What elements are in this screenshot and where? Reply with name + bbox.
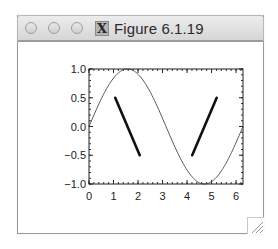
x-tick-label: 1 [110, 190, 116, 202]
title-bar[interactable]: X Figure 6.1.19 [17, 15, 264, 42]
series-segment-2 [192, 98, 217, 156]
y-tick-label: −0.5 [64, 149, 86, 161]
x-tick-label: 3 [159, 190, 165, 202]
window-title: Figure 6.1.19 [114, 20, 204, 37]
x-tick-label: 5 [208, 190, 214, 202]
zoom-button[interactable] [71, 22, 83, 34]
close-button[interactable] [25, 22, 37, 34]
series-sin-x- [89, 69, 243, 184]
x-tick-label: 0 [86, 190, 92, 202]
resize-grip-icon [248, 218, 264, 234]
series-segment-1 [115, 98, 140, 156]
x-tick-label: 4 [184, 190, 190, 202]
x-tick-label: 6 [233, 190, 239, 202]
y-tick-label: 0.0 [71, 121, 86, 133]
resize-grip[interactable] [247, 217, 264, 234]
x-tick-label: 2 [135, 190, 141, 202]
x11-icon: X [95, 21, 109, 36]
y-tick-label: 0.5 [71, 92, 86, 104]
plot-canvas: 01234561.00.50.0−0.5−1.0 [18, 42, 263, 233]
figure-window: X Figure 6.1.19 01234561.00.50.0−0.5−1.0 [17, 15, 264, 234]
chart-svg: 01234561.00.50.0−0.5−1.0 [18, 42, 263, 233]
series-group [89, 69, 243, 184]
y-tick-label: 1.0 [71, 63, 86, 75]
y-tick-label: −1.0 [64, 178, 86, 190]
minimize-button[interactable] [48, 22, 60, 34]
